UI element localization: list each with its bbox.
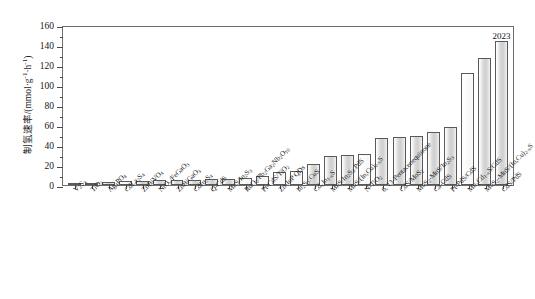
y-axis-tick: 160 <box>57 27 63 28</box>
y-axis-tick-label: 100 <box>40 81 54 91</box>
x-axis-tick-labels: V2S3TiO2Ag3PO4CdLa2S4ZnBiVO4NiOx/FeGaO3Z… <box>62 188 514 298</box>
y-axis-tick: 120 <box>57 67 63 68</box>
bar-slot <box>134 27 151 185</box>
y-axis-tick-label: 120 <box>40 61 54 71</box>
y-axis-tick-label: 140 <box>40 41 54 51</box>
y-axis-minor-tick <box>60 117 64 118</box>
y-axis-minor-tick <box>60 137 64 138</box>
bar-slot <box>237 27 254 185</box>
y-axis-tick: 40 <box>57 147 63 148</box>
y-axis-tick: 20 <box>57 167 63 168</box>
bar-slot <box>220 27 237 185</box>
y-axis-tick-label: 60 <box>45 121 55 131</box>
y-axis-tick: 140 <box>57 47 63 48</box>
bar-slot <box>83 27 100 185</box>
bar-slot <box>305 27 322 185</box>
y-axis-tick: 100 <box>57 87 63 88</box>
y-axis-minor-tick <box>60 77 64 78</box>
y-axis-tick: 80 <box>57 107 63 108</box>
bar-slot <box>476 27 493 185</box>
bar-slot <box>117 27 134 185</box>
bar-slot <box>322 27 339 185</box>
bar-slot <box>203 27 220 185</box>
y-axis-tick: 60 <box>57 127 63 128</box>
y-axis-minor-tick <box>60 57 64 58</box>
bar-slot <box>186 27 203 185</box>
bar-slot <box>66 27 83 185</box>
year-annotation: 2023 <box>492 31 510 41</box>
y-axis-tick-label: 160 <box>40 21 54 31</box>
y-axis-tick-label: 40 <box>45 141 55 151</box>
y-axis-title: 制氢速率/(mmol·g-1·h-1) <box>20 15 34 195</box>
y-axis-tick-label: 0 <box>49 181 54 191</box>
bar-slot <box>151 27 168 185</box>
y-axis-tick-label: 80 <box>45 101 55 111</box>
y-axis-minor-tick <box>60 97 64 98</box>
y-axis-minor-tick <box>60 37 64 38</box>
y-axis-tick-label: 20 <box>45 161 55 171</box>
bar-slot <box>459 27 476 185</box>
bar-slot <box>100 27 117 185</box>
bar-slot <box>288 27 305 185</box>
y-axis-minor-tick <box>60 177 64 178</box>
y-axis-minor-tick <box>60 157 64 158</box>
bar-slot <box>425 27 442 185</box>
